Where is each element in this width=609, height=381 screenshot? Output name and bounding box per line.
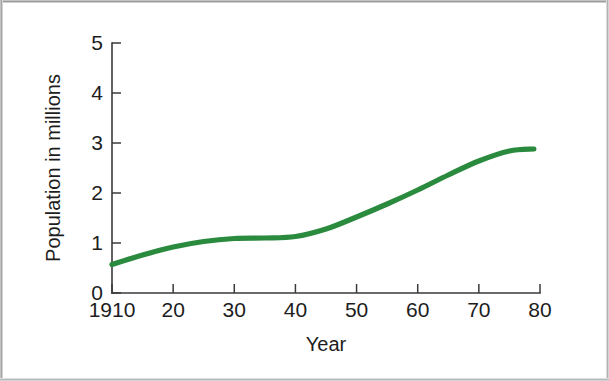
y-tick-label: 4 [91,81,103,104]
y-axis-title: Population in millions [42,74,64,262]
y-tick-label: 5 [91,31,103,54]
x-tick-label: 20 [161,298,184,321]
x-tick-label: 30 [223,298,246,321]
x-axis-title: Year [306,333,347,355]
x-tick-label: 40 [284,298,307,321]
y-tick-label: 2 [91,181,103,204]
figure-container: 012345 191020304050607080 Year Populatio… [0,0,609,381]
y-tick-label: 1 [91,231,103,254]
x-tick-label: 80 [528,298,551,321]
line-chart: 012345 191020304050607080 Year Populatio… [0,0,609,381]
x-tick-label: 50 [345,298,368,321]
x-axis-ticks: 191020304050607080 [89,284,552,321]
x-tick-label: 70 [467,298,490,321]
x-tick-label: 1910 [89,298,136,321]
population-line-series [112,149,534,265]
y-tick-label: 3 [91,131,103,154]
x-tick-label: 60 [406,298,429,321]
